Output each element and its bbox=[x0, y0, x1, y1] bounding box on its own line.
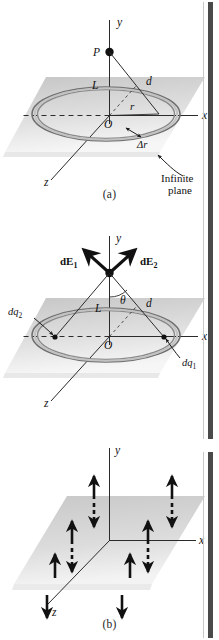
label-distance-d: d bbox=[146, 297, 152, 309]
label-origin-o: O bbox=[104, 339, 113, 351]
plane-edge-shadow bbox=[3, 373, 160, 378]
label-dE2: dE2 bbox=[140, 255, 157, 270]
page-gutter-bar-bottom bbox=[208, 452, 213, 638]
axis-label-z: z bbox=[43, 397, 49, 409]
axis-label-y: y bbox=[115, 232, 122, 245]
label-length-l: L bbox=[91, 79, 98, 91]
charge-dq2-marker bbox=[52, 334, 57, 339]
axis-label-z: z bbox=[51, 606, 57, 618]
label-dE1-text: dE bbox=[60, 255, 73, 267]
label-dq1-subscript: 1 bbox=[193, 362, 197, 371]
label-length-l: L bbox=[94, 302, 101, 314]
plane-edge-shadow bbox=[3, 152, 160, 157]
panel-c: y x z E= σ 2ε0 j E=− σ 2ε0 j (c) bbox=[0, 426, 219, 640]
label-dE2-subscript: 2 bbox=[153, 261, 157, 270]
label-point-p: P bbox=[92, 46, 100, 58]
page-gutter-hairline-top bbox=[203, 2, 204, 439]
plane-edge-shadow bbox=[12, 584, 152, 590]
label-infinite-plane-line1: Infinite bbox=[161, 172, 193, 184]
charge-dq1-marker bbox=[161, 334, 166, 339]
label-dq2-subscript: 2 bbox=[19, 311, 23, 320]
label-dq2-text: dq bbox=[8, 306, 19, 317]
label-delta-r: Δr bbox=[136, 139, 148, 150]
label-radius-r: r bbox=[130, 100, 135, 112]
axis-label-z: z bbox=[43, 176, 49, 188]
label-theta: θ bbox=[120, 294, 126, 306]
panel-c-diagram: y x z bbox=[0, 426, 219, 640]
axis-label-y: y bbox=[114, 444, 121, 457]
page-gutter-hairline-bottom bbox=[203, 452, 204, 638]
label-dE1: dE1 bbox=[60, 255, 77, 270]
label-dq1-text: dq bbox=[182, 357, 193, 368]
label-dE2-text: dE bbox=[140, 255, 153, 267]
panel-b: y x z dE1 dE2 θ L d O dq2 dq1 (b) bbox=[0, 213, 219, 426]
vector-dE1 bbox=[84, 250, 110, 273]
caption-panel-a: (a) bbox=[0, 188, 219, 200]
label-dE1-subscript: 1 bbox=[73, 261, 77, 270]
axis-label-y: y bbox=[116, 16, 123, 29]
label-dq2: dq2 bbox=[8, 306, 23, 320]
physics-figure: y x z P O L d r Δr Infinite plane (a) bbox=[0, 0, 219, 640]
label-origin-o: O bbox=[104, 118, 113, 130]
label-dq1: dq1 bbox=[182, 357, 197, 371]
page-gutter-bar-top bbox=[208, 2, 213, 439]
panel-a-diagram: y x z P O L d r Δr Infinite plane bbox=[0, 0, 219, 213]
panel-b-diagram: y x z dE1 dE2 θ L d O dq2 dq1 bbox=[0, 213, 219, 426]
label-distance-d: d bbox=[146, 75, 152, 87]
vector-dE2 bbox=[110, 250, 136, 273]
panel-a: y x z P O L d r Δr Infinite plane (a) bbox=[0, 0, 219, 213]
